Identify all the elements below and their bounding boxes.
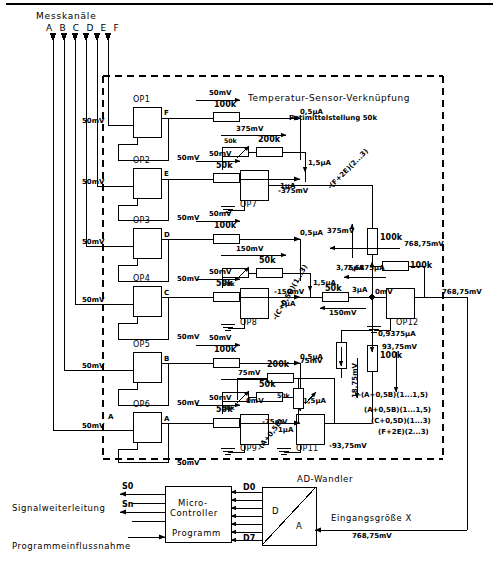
stage-6-feedback-voltage: 50mV — [177, 460, 199, 467]
stage-1-feedback-voltage: 50mV — [177, 155, 199, 162]
mcu-program-label: Programm — [172, 528, 221, 538]
op12-node-current: 3µA — [352, 287, 367, 294]
op12-node-resistor: 50k — [325, 285, 341, 293]
adc-digital-label: D — [272, 506, 279, 516]
op11-top-voltage: 75mV — [300, 358, 322, 365]
stage-1-out-letter: F — [164, 110, 169, 117]
stage-2-arrow-voltage: 50mV — [209, 151, 231, 158]
stage-6-arrow-voltage: 50mV — [209, 395, 231, 402]
formula-line-2: (C+0,5D)(1...3) — [371, 418, 431, 425]
op12-zero-voltage: 0mV — [375, 289, 393, 296]
stage-2-resistor: 50k — [216, 162, 232, 170]
stage-2-feedback-voltage: 50mV — [177, 215, 199, 222]
op11-input-voltage: -75mV — [262, 419, 287, 426]
stage-1-arrow-voltage: 50mV — [209, 90, 231, 97]
formula-line-3: (F+2E)(2...3) — [378, 429, 429, 436]
stage-6-input-voltage: 50mV — [82, 423, 104, 430]
opamp-op2-label: OP2 — [133, 156, 150, 165]
stage-3-out-letter: D — [164, 232, 170, 239]
op12-feedback-current: 7,6875µA — [347, 265, 385, 272]
stage-3-current: 0,5µA — [300, 230, 323, 237]
channel-a-tap-label: A — [108, 414, 113, 421]
stage-3-arrow-voltage: 50mV — [209, 211, 231, 218]
schematic-canvas: Messkanäle A B C D E F Temperatur-Sensor… — [0, 0, 499, 587]
formula-left-label: -(A+0,5B)(1...1,5) — [358, 392, 428, 399]
stage-3-feedback-voltage: 50mV — [177, 276, 199, 283]
op12-up-voltage: 375mV — [327, 228, 354, 235]
stage-3-resistor: 100k — [214, 222, 236, 230]
op11-right-voltage: 93,75mV — [382, 344, 417, 351]
op11-pot-value: 50k — [277, 393, 290, 399]
stage-2-input-voltage: 50mV — [82, 179, 104, 186]
op7-pot-value: 50k — [224, 138, 237, 144]
mcu-output-top-label: S0 — [122, 483, 133, 491]
opamp-op9-label: OP9 — [240, 444, 257, 453]
stage-1-current: 0,5µA — [300, 109, 323, 116]
stage-5-out-letter: B — [164, 356, 169, 363]
op11-output-voltage: -93,75mV — [329, 443, 367, 450]
stage-4-input-voltage: 50mV — [82, 297, 104, 304]
signal-forwarding-note: Signalweiterleitung — [12, 503, 106, 513]
stage-1-input-voltage: 50mV — [82, 118, 104, 125]
op9-pot-value: 50k — [222, 405, 235, 411]
op12-feedback-voltage: 768,75mV — [404, 241, 444, 248]
adc-input-value: 768,75mV — [352, 533, 392, 540]
opamp-op1-label: OP1 — [133, 95, 150, 104]
op11-100k-resistor: 100k — [380, 352, 402, 360]
stage-1-resistor: 100k — [214, 101, 236, 109]
diagram-title: Temperatur-Sensor-Verknüpfung — [248, 93, 410, 103]
opamp-op3-label: OP3 — [133, 216, 150, 225]
op8-pot-value: 50k — [222, 281, 235, 287]
op7-series-resistor: 200k — [258, 136, 280, 144]
opamp-op8-label: OP8 — [240, 318, 257, 327]
stage-4-arrow-voltage: 50mV — [209, 269, 231, 276]
mcu-line-2: Controller — [170, 508, 218, 518]
adc-bus-top-label: D0 — [243, 484, 255, 492]
op12-node-voltage: 150mV — [329, 310, 356, 317]
op9-current: 1,5µA — [303, 398, 326, 405]
op12-up-resistor: 100k — [380, 234, 402, 242]
stage-5-resistor: 100k — [214, 346, 236, 354]
messkanaele-header: Messkanäle — [36, 11, 97, 21]
stage-2-out-letter: E — [164, 171, 169, 178]
messkanaele-channels: A B C D E F — [46, 23, 121, 33]
adc-input-label: Eingangsgröße X — [331, 513, 412, 523]
adc-analog-label: A — [296, 521, 302, 531]
op7-arrow-voltage: 375mV — [236, 126, 263, 133]
stage-6-out-letter: A — [164, 416, 169, 423]
stage-5-input-voltage: 50mV — [82, 363, 104, 370]
op8-series-resistor: 50k — [259, 257, 275, 265]
op7-output-voltage: -375mV — [278, 188, 308, 195]
opamp-op11-label: OP11 — [296, 444, 319, 453]
opamp-op7-label: OP7 — [240, 200, 257, 209]
op9-series-resistor: 50k — [259, 381, 275, 389]
mcu-output-bottom-label: Sn — [122, 501, 133, 509]
stage-5-arrow-voltage: 50mV — [209, 335, 231, 342]
program-influence-note: Programmeinflussnahme — [12, 541, 131, 551]
opamp-op6-label: OP6 — [133, 400, 150, 409]
adc-title: AD-Wandler — [297, 474, 353, 484]
pot-note: Potimittelstellung 50k — [289, 115, 377, 122]
mcu-line-1: Micro- — [178, 498, 208, 508]
opamp-op12-label: OP12 — [396, 318, 419, 327]
op11-series-resistor: 200k — [267, 361, 289, 369]
stage-5-feedback-voltage: 50mV — [177, 400, 199, 407]
stage-3-input-voltage: 50mV — [82, 239, 104, 246]
formula-line-1: (A+0,5B)(1...1,5) — [364, 407, 431, 414]
stage-4-feedback-voltage: 50mV — [177, 334, 199, 341]
schematic-vectors — [0, 0, 499, 587]
op12-output-voltage: 768,75mV — [442, 289, 482, 296]
op9-arrow-voltage: 75mV — [238, 370, 260, 377]
op7-current: 1,5µA — [308, 160, 331, 167]
opamp-op5-label: OP5 — [133, 340, 150, 349]
op9-zero-voltage: 0mV — [246, 398, 264, 405]
opamp-op4-label: OP4 — [133, 274, 150, 283]
stage-4-out-letter: C — [164, 290, 169, 297]
adc-bus-bottom-label: D7 — [243, 535, 255, 543]
op12-feedback-resistor: 100k — [410, 262, 432, 270]
op8-arrow-voltage: 150mV — [236, 246, 263, 253]
op11-current: 0,9375µA — [378, 331, 416, 338]
